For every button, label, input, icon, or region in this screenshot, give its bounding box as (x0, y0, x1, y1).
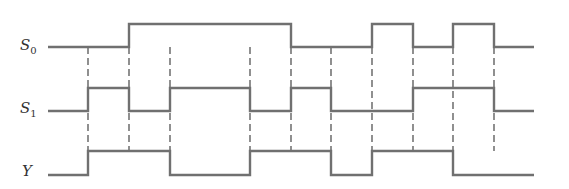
waveform-2 (48, 151, 534, 175)
signal-subscript: 1 (30, 108, 36, 119)
signal-label-s0: S0 (20, 36, 37, 56)
timing-diagram: S0 S1 Y (0, 0, 569, 189)
signal-name: S (20, 99, 30, 117)
waveform-0 (48, 24, 534, 47)
signal-subscript: 0 (30, 45, 36, 56)
signal-label-s1: S1 (20, 99, 37, 119)
waveform-1 (48, 88, 534, 111)
signal-name: S (20, 36, 30, 54)
signal-label-y: Y (22, 162, 32, 180)
signal-name: Y (22, 162, 32, 180)
waveform-plot (0, 0, 569, 189)
